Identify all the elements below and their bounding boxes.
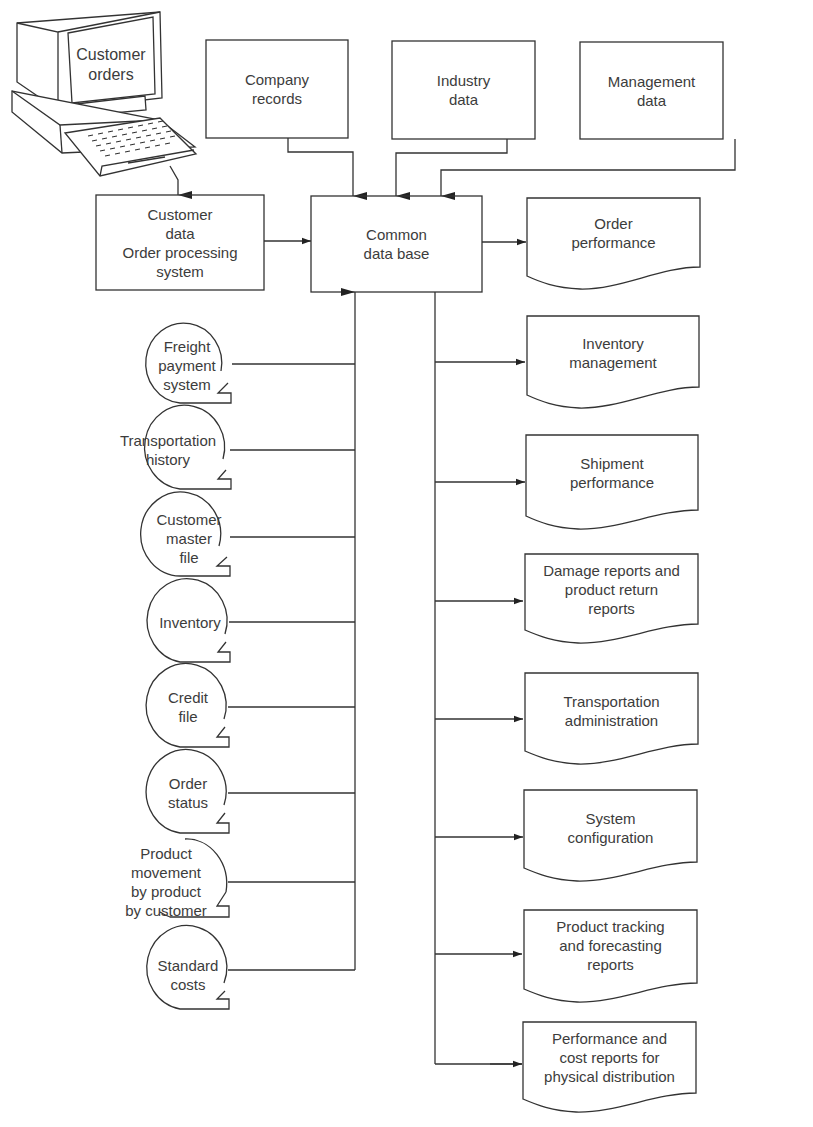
label-line: file	[179, 548, 198, 567]
management-data-label: Management data	[580, 42, 723, 139]
label-line: Customer	[156, 510, 221, 529]
label-line: by product	[131, 882, 201, 901]
file-inventory-label: Inventory	[148, 608, 232, 636]
label-line: system	[163, 375, 211, 394]
terminal-label-line: orders	[88, 65, 133, 85]
label-line: physical distribution	[544, 1067, 675, 1086]
common-data-base-label: Common data base	[311, 196, 482, 292]
label-line: Freight	[164, 337, 211, 356]
label-line: Company	[245, 70, 309, 89]
label-line: data	[449, 90, 478, 109]
report-shipment-performance-label: Shipment performance	[526, 448, 698, 498]
file-transportation-history-label: Transportation history	[100, 426, 236, 474]
company-records-label: Company records	[206, 40, 348, 138]
label-line: file	[178, 707, 197, 726]
label-line: Transportation	[563, 692, 659, 711]
report-damage-reports-label: Damage reports and product return report…	[525, 556, 698, 622]
label-line: costs	[170, 975, 205, 994]
label-line: Damage reports and	[543, 561, 680, 580]
label-line: data	[165, 224, 194, 243]
label-line: Industry	[437, 71, 490, 90]
file-standard-costs-label: Standard costs	[146, 952, 230, 998]
label-line: master	[166, 529, 212, 548]
order-processing-label: Customer data Order processing system	[96, 195, 264, 290]
report-system-configuration-label: System configuration	[524, 803, 697, 853]
label-line: Order	[594, 214, 632, 233]
label-line: by customer	[125, 901, 207, 920]
label-line: data base	[364, 244, 430, 263]
industry-data-label: Industry data	[392, 41, 535, 139]
label-line: System	[585, 809, 635, 828]
label-line: management	[569, 353, 657, 372]
terminal-label: Customer orders	[70, 35, 152, 95]
label-line: Credit	[168, 688, 208, 707]
label-line: Order	[169, 774, 207, 793]
label-line: Product tracking	[556, 917, 664, 936]
file-credit-label: Credit file	[148, 684, 228, 730]
label-line: movement	[131, 863, 201, 882]
label-line: history	[146, 450, 190, 469]
report-transportation-admin-label: Transportation administration	[525, 686, 698, 736]
terminal-label-line: Customer	[76, 45, 145, 65]
label-line: data	[637, 91, 666, 110]
label-line: Common	[366, 225, 427, 244]
label-line: Customer	[147, 205, 212, 224]
label-line: configuration	[568, 828, 654, 847]
label-line: Product	[140, 844, 192, 863]
label-line: Inventory	[582, 334, 644, 353]
label-line: Standard	[158, 956, 219, 975]
label-line: performance	[571, 233, 655, 252]
label-line: product return	[565, 580, 658, 599]
label-line: Performance and	[552, 1029, 667, 1048]
report-product-tracking-label: Product tracking and forecasting reports	[524, 912, 697, 978]
label-line: Inventory	[159, 613, 221, 632]
report-order-performance-label: Order performance	[527, 208, 700, 258]
label-line: reports	[587, 955, 634, 974]
file-customer-master-label: Customer master file	[140, 503, 238, 573]
report-inventory-management-label: Inventory management	[527, 328, 699, 378]
label-line: records	[252, 89, 302, 108]
label-line: Management	[608, 72, 696, 91]
label-line: cost reports for	[559, 1048, 659, 1067]
label-line: and forecasting	[559, 936, 662, 955]
label-line: administration	[565, 711, 658, 730]
label-line: Transportation	[120, 431, 216, 450]
label-line: Order processing	[122, 243, 237, 262]
label-line: reports	[588, 599, 635, 618]
file-freight-payment-label: Freight payment system	[140, 330, 234, 400]
label-line: system	[156, 262, 204, 281]
label-line: Shipment	[580, 454, 643, 473]
label-line: status	[168, 793, 208, 812]
label-line: payment	[158, 356, 216, 375]
report-performance-cost-label: Performance and cost reports for physica…	[523, 1024, 696, 1090]
label-line: performance	[570, 473, 654, 492]
file-order-status-label: Order status	[148, 770, 228, 816]
file-product-movement-label: Product movement by product by customer	[100, 840, 232, 924]
